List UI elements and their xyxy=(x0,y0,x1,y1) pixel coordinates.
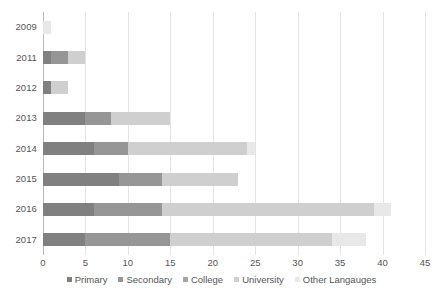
bar-segment xyxy=(68,51,85,64)
legend-item[interactable]: Other Langauges xyxy=(295,274,376,285)
y-axis-tick-label: 2015 xyxy=(15,173,37,184)
x-axis-tick-label: 10 xyxy=(123,257,134,268)
legend-label: Primary xyxy=(75,274,108,285)
bar-segment xyxy=(43,173,119,186)
chart-legend: PrimarySecondaryCollegeUniversityOther L… xyxy=(0,274,443,285)
bar-segment xyxy=(43,81,51,94)
bar-row xyxy=(43,164,425,194)
bar-segment xyxy=(128,142,247,155)
gridline-45 xyxy=(425,12,426,255)
plot-area xyxy=(43,12,425,255)
x-axis: 051015202530354045 xyxy=(43,257,425,271)
y-axis-tick-label: 2014 xyxy=(15,143,37,154)
bar-segment xyxy=(43,112,85,125)
legend-label: University xyxy=(242,274,284,285)
x-axis-tick-label: 45 xyxy=(420,257,431,268)
legend-label: College xyxy=(191,274,223,285)
bar-segment xyxy=(247,142,255,155)
bar-stack-2015 xyxy=(43,173,238,186)
bar-row xyxy=(43,103,425,133)
bar-segment xyxy=(162,173,238,186)
bar-segment xyxy=(170,233,331,246)
bar-stack-2017 xyxy=(43,233,366,246)
legend-item[interactable]: Primary xyxy=(67,274,108,285)
legend-swatch-icon xyxy=(295,277,300,282)
bar-segment xyxy=(111,112,170,125)
y-axis-tick-label: 2011 xyxy=(16,52,37,63)
bar-row xyxy=(43,73,425,103)
y-axis: 20092011201220132014201520162017 xyxy=(0,12,37,255)
bar-stack-2011 xyxy=(43,51,85,64)
x-axis-tick-label: 0 xyxy=(40,257,45,268)
chart-container: 20092011201220132014201520162017 0510152… xyxy=(0,0,443,299)
bar-row xyxy=(43,134,425,164)
bar-segment xyxy=(85,233,170,246)
bar-segment xyxy=(94,203,162,216)
legend-swatch-icon xyxy=(118,277,123,282)
bar-segment xyxy=(374,203,391,216)
y-axis-tick-label: 2016 xyxy=(15,203,37,214)
bar-row xyxy=(43,194,425,224)
legend-item[interactable]: College xyxy=(183,274,223,285)
bar-row xyxy=(43,42,425,72)
x-axis-tick-label: 40 xyxy=(377,257,388,268)
y-axis-tick-label: 2017 xyxy=(15,234,37,245)
bar-row xyxy=(43,12,425,42)
bar-segment xyxy=(119,173,161,186)
x-axis-tick-label: 30 xyxy=(292,257,303,268)
legend-swatch-icon xyxy=(234,277,239,282)
x-axis-tick-label: 20 xyxy=(207,257,218,268)
legend-item[interactable]: Secondary xyxy=(118,274,171,285)
bar-row xyxy=(43,225,425,255)
y-axis-tick-label: 2009 xyxy=(15,21,37,32)
bar-segment xyxy=(332,233,366,246)
bar-segment xyxy=(43,233,85,246)
bar-stack-2012 xyxy=(43,81,68,94)
bar-segment xyxy=(51,81,68,94)
bar-segment xyxy=(85,112,110,125)
x-axis-tick-label: 25 xyxy=(250,257,261,268)
legend-label: Other Langauges xyxy=(303,274,376,285)
bar-stack-2013 xyxy=(43,112,170,125)
bar-stack-2016 xyxy=(43,203,391,216)
legend-label: Secondary xyxy=(126,274,171,285)
x-axis-tick-label: 5 xyxy=(83,257,88,268)
bar-segment xyxy=(43,142,94,155)
legend-item[interactable]: University xyxy=(234,274,284,285)
y-axis-tick-label: 2013 xyxy=(15,112,37,123)
legend-swatch-icon xyxy=(183,277,188,282)
bar-segment xyxy=(94,142,128,155)
bar-segment xyxy=(43,203,94,216)
legend-swatch-icon xyxy=(67,277,72,282)
bar-segment xyxy=(43,21,51,34)
x-axis-tick-label: 15 xyxy=(165,257,176,268)
bar-stack-2014 xyxy=(43,142,255,155)
bar-stack-2009 xyxy=(43,21,51,34)
bar-segment xyxy=(162,203,374,216)
y-axis-tick-label: 2012 xyxy=(15,82,37,93)
bar-segment xyxy=(43,51,51,64)
x-axis-tick-label: 35 xyxy=(335,257,346,268)
bar-segment xyxy=(51,51,68,64)
